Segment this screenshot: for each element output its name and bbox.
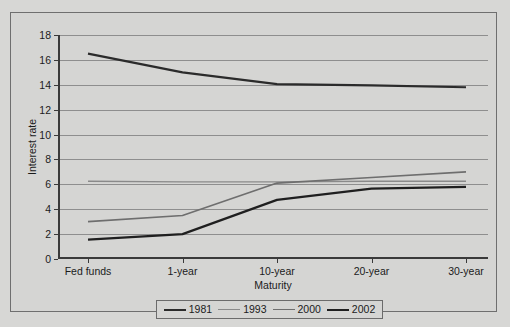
x-tick-label: 1-year: [168, 265, 198, 277]
y-axis-title: Interest rate: [25, 35, 39, 259]
legend-label-1981: 1981: [189, 304, 212, 315]
legend-swatch-2000: [273, 309, 295, 310]
x-tick-mark: [88, 259, 89, 263]
series-line-1993: [88, 181, 466, 182]
series-line-2002: [88, 187, 466, 240]
y-tick-label: 8: [45, 153, 51, 165]
series-line-1981: [88, 54, 466, 88]
plot-area: 024681012141618 Fed funds1-year10-year20…: [58, 35, 488, 259]
x-tick-label: Fed funds: [65, 265, 112, 277]
y-tick-mark: [54, 259, 58, 260]
legend-swatch-1981: [164, 309, 186, 311]
x-tick-label: 30-year: [448, 265, 484, 277]
chart-frame: Interest rate 024681012141618 Fed funds1…: [10, 12, 497, 312]
legend: 1981199320002002: [156, 300, 383, 319]
legend-label-1993: 1993: [243, 304, 266, 315]
legend-entry-1993: 1993: [215, 304, 269, 315]
y-tick-label: 16: [39, 54, 51, 66]
x-tick-mark: [183, 259, 184, 263]
legend-label-2002: 2002: [352, 304, 375, 315]
x-axis-title: Maturity: [58, 279, 488, 291]
x-tick-label: 20-year: [354, 265, 390, 277]
y-tick-label: 10: [39, 129, 51, 141]
legend-entry-2000: 2000: [270, 304, 324, 315]
plot-frame: 024681012141618 Fed funds1-year10-year20…: [58, 35, 488, 259]
y-tick-label: 4: [45, 203, 51, 215]
legend-entry-2002: 2002: [324, 304, 378, 315]
legend-swatch-2002: [327, 309, 349, 311]
series-lines: [58, 35, 488, 259]
y-tick-label: 0: [45, 253, 51, 265]
y-tick-label: 14: [39, 79, 51, 91]
x-tick-mark: [372, 259, 373, 263]
y-tick-label: 2: [45, 228, 51, 240]
y-tick-label: 6: [45, 178, 51, 190]
series-line-2000: [88, 172, 466, 222]
figure-container: Interest rate 024681012141618 Fed funds1…: [0, 0, 510, 327]
x-tick-label: 10-year: [259, 265, 295, 277]
legend-entry-1981: 1981: [161, 304, 215, 315]
x-tick-mark: [277, 259, 278, 263]
x-tick-mark: [466, 259, 467, 263]
y-tick-label: 12: [39, 104, 51, 116]
y-tick-label: 18: [39, 29, 51, 41]
legend-swatch-1993: [218, 309, 240, 310]
legend-label-2000: 2000: [298, 304, 321, 315]
